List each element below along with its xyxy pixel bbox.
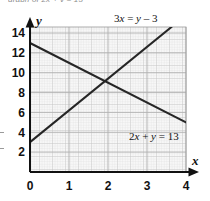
line2-rest: = 13 — [156, 130, 179, 142]
line1-eq: = — [124, 12, 136, 24]
edge-artifact-mark — [0, 148, 4, 149]
grid-area — [30, 27, 186, 172]
line1-rest: – 3 — [141, 12, 158, 24]
clipped-caption-fragment: graph of 2x + y = 13 — [8, 0, 128, 2]
x-axis-arrowhead — [189, 168, 200, 177]
y-tick-label-10: 10 — [12, 66, 26, 80]
x-tick-label-4: 4 — [183, 179, 190, 193]
y-tick-label-12: 12 — [12, 46, 26, 60]
graph-figure: graph of 2x + y = 13 — [0, 0, 210, 201]
x-tick-label-1: 1 — [66, 179, 73, 193]
x-axis-label: x — [191, 153, 199, 168]
y-tick-label-8: 8 — [18, 86, 25, 100]
x-tick-label-2: 2 — [105, 179, 112, 193]
y-tick-label-6: 6 — [18, 106, 25, 120]
y-tick-label-4: 4 — [18, 126, 25, 140]
coordinate-plane-svg: y x 2 4 6 8 10 12 14 0 1 2 3 4 3x = y – … — [0, 0, 210, 201]
line2-plus: + — [139, 130, 151, 142]
x-tick-label-3: 3 — [144, 179, 151, 193]
y-tick-label-2: 2 — [18, 145, 25, 159]
line-label-3x-eq-y-minus-3: 3x = y – 3 — [114, 12, 158, 24]
x-tick-label-0: 0 — [27, 179, 34, 193]
y-tick-label-14: 14 — [12, 26, 26, 40]
edge-artifact-mark — [0, 132, 4, 133]
y-axis-label: y — [34, 13, 42, 28]
y-axis-arrowhead — [26, 17, 35, 28]
line-label-2x-plus-y-eq-13: 2x + y = 13 — [129, 130, 179, 142]
